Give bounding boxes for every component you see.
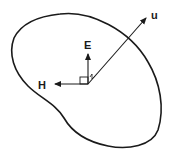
region-boundary bbox=[12, 13, 162, 147]
vector-H-label: H bbox=[38, 79, 46, 91]
diagram-canvas: E H u bbox=[0, 0, 169, 154]
vector-u-arrow bbox=[88, 18, 146, 84]
right-angle-marker bbox=[80, 77, 88, 84]
vector-E-label: E bbox=[84, 39, 91, 51]
vector-u-label: u bbox=[151, 9, 158, 21]
